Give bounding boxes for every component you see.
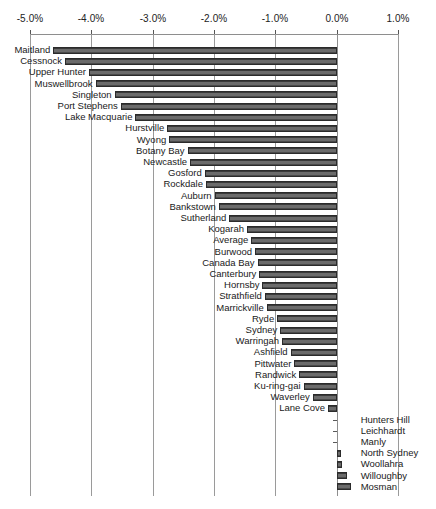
bar-hunters-hill-nearzero bbox=[333, 420, 337, 421]
category-label-muswellbrook: Muswellbrook bbox=[35, 79, 93, 89]
category-label-rockdale: Rockdale bbox=[163, 179, 203, 189]
category-label-woollahra: Woollahra bbox=[361, 459, 404, 469]
x-tick-mark bbox=[214, 30, 215, 34]
bar-singleton bbox=[115, 91, 337, 98]
bar-wyong bbox=[169, 136, 336, 143]
x-tick-mark bbox=[91, 30, 92, 34]
category-label-hurstville: Hurstville bbox=[125, 123, 164, 133]
chart-row: Lane Cove bbox=[0, 403, 436, 414]
chart-row: Marrickville bbox=[0, 303, 436, 314]
chart-row: Newcastle bbox=[0, 157, 436, 168]
bar-muswellbrook bbox=[96, 80, 337, 87]
category-label-singleton: Singleton bbox=[72, 90, 112, 100]
category-label-ryde: Ryde bbox=[252, 314, 274, 324]
category-label-hornsby: Hornsby bbox=[224, 280, 259, 290]
chart-row: Wyong bbox=[0, 135, 436, 146]
chart-row: Canterbury bbox=[0, 269, 436, 280]
bar-mosman bbox=[337, 483, 351, 490]
x-tick-mark bbox=[30, 30, 31, 34]
category-label-upper-hunter: Upper Hunter bbox=[29, 67, 86, 77]
chart-row: Auburn bbox=[0, 191, 436, 202]
bar-canada-bay bbox=[258, 259, 337, 266]
category-label-strathfield: Strathfield bbox=[219, 291, 262, 301]
chart-row: Ku-ring-gai bbox=[0, 381, 436, 392]
bar-burwood bbox=[255, 248, 337, 255]
chart-row: Willoughby bbox=[0, 471, 436, 482]
bar-marrickville bbox=[267, 304, 337, 311]
x-tick-label: -5.0% bbox=[17, 13, 44, 24]
bar-upper-hunter bbox=[89, 69, 337, 76]
category-label-marrickville: Marrickville bbox=[216, 303, 264, 313]
x-tick-mark bbox=[275, 30, 276, 34]
chart-row: Gosford bbox=[0, 168, 436, 179]
bar-hurstville bbox=[167, 125, 336, 132]
x-tick-label: 0.0% bbox=[325, 13, 348, 24]
bar-north-sydney bbox=[337, 450, 341, 457]
bar-pittwater bbox=[294, 360, 336, 367]
category-label-leichhardt: Leichhardt bbox=[361, 426, 405, 436]
x-tick-mark bbox=[398, 30, 399, 34]
category-label-pittwater: Pittwater bbox=[254, 359, 291, 369]
chart-row: Hornsby bbox=[0, 280, 436, 291]
category-label-port-stephens: Port Stephens bbox=[58, 101, 118, 111]
category-label-mosman: Mosman bbox=[361, 482, 397, 492]
x-tick-label: -4.0% bbox=[78, 13, 105, 24]
x-tick-label: -3.0% bbox=[140, 13, 167, 24]
bar-woollahra bbox=[337, 461, 342, 468]
chart-row: Woollahra bbox=[0, 459, 436, 470]
bar-hornsby bbox=[262, 282, 336, 289]
chart-row: Pittwater bbox=[0, 359, 436, 370]
category-label-auburn: Auburn bbox=[181, 191, 212, 201]
x-tick-label: 1.0% bbox=[386, 13, 409, 24]
plot-area: -5.0%-4.0%-3.0%-2.0%-1.0%0.0%1.0%Maitlan… bbox=[0, 0, 436, 509]
chart-row: Muswellbrook bbox=[0, 79, 436, 90]
bar-waverley bbox=[313, 394, 337, 401]
category-label-canterbury: Canterbury bbox=[209, 269, 256, 279]
bar-newcastle bbox=[190, 159, 337, 166]
chart-row: Maitland bbox=[0, 45, 436, 56]
chart-container: -5.0%-4.0%-3.0%-2.0%-1.0%0.0%1.0%Maitlan… bbox=[0, 0, 436, 509]
bar-lake-macquarie bbox=[135, 114, 336, 121]
category-label-ku-ring-gai: Ku-ring-gai bbox=[254, 381, 300, 391]
bar-botany-bay bbox=[188, 147, 337, 154]
chart-row: Mosman bbox=[0, 482, 436, 493]
bar-port-stephens bbox=[121, 103, 337, 110]
category-label-hunters-hill: Hunters Hill bbox=[361, 415, 410, 425]
category-label-burwood: Burwood bbox=[215, 247, 253, 257]
bar-lane-cove bbox=[328, 405, 337, 412]
chart-row: Hunters Hill bbox=[0, 415, 436, 426]
chart-row: Ryde bbox=[0, 314, 436, 325]
bar-auburn bbox=[215, 192, 337, 199]
bar-randwick bbox=[299, 371, 336, 378]
x-tick-mark bbox=[337, 30, 338, 34]
category-label-canada-bay: Canada Bay bbox=[202, 258, 254, 268]
category-label-lane-cove: Lane Cove bbox=[279, 403, 325, 413]
bar-willoughby bbox=[337, 472, 347, 479]
bar-ryde bbox=[277, 315, 336, 322]
bar-ku-ring-gai bbox=[304, 383, 337, 390]
bar-canterbury bbox=[259, 271, 336, 278]
chart-row: Randwick bbox=[0, 370, 436, 381]
category-label-botany-bay: Botany Bay bbox=[136, 146, 185, 156]
bar-strathfield bbox=[265, 293, 337, 300]
category-label-maitland: Maitland bbox=[14, 45, 50, 55]
category-label-manly: Manly bbox=[361, 437, 386, 447]
bar-leichhardt-nearzero bbox=[333, 431, 337, 432]
bar-sydney bbox=[280, 327, 336, 334]
bar-bankstown bbox=[219, 203, 337, 210]
x-tick-label: -1.0% bbox=[262, 13, 289, 24]
category-label-ashfield: Ashfield bbox=[254, 347, 288, 357]
category-label-willoughby: Willoughby bbox=[361, 471, 407, 481]
chart-row: Rockdale bbox=[0, 179, 436, 190]
bar-ashfield bbox=[291, 349, 337, 356]
chart-row: Warringah bbox=[0, 336, 436, 347]
category-label-cessnock: Cessnock bbox=[20, 56, 62, 66]
category-label-waverley: Waverley bbox=[270, 392, 309, 402]
category-label-randwick: Randwick bbox=[255, 370, 296, 380]
bar-sutherland bbox=[229, 215, 336, 222]
category-label-sydney: Sydney bbox=[246, 325, 278, 335]
bar-warringah bbox=[282, 338, 337, 345]
bar-cessnock bbox=[65, 58, 337, 65]
bar-average bbox=[251, 237, 336, 244]
bar-manly-nearzero bbox=[333, 442, 337, 443]
